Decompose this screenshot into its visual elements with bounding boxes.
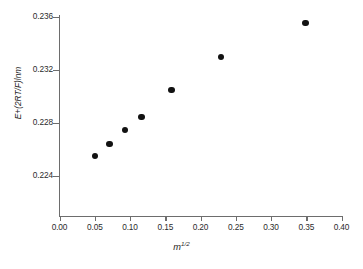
x-tick-label: 0.35 bbox=[286, 222, 326, 232]
x-tick-mark bbox=[60, 216, 61, 221]
x-tick-label: 0.40 bbox=[322, 222, 362, 232]
x-tick-mark bbox=[95, 216, 96, 221]
y-tick-label-text: 0.228 bbox=[19, 118, 53, 127]
data-point bbox=[218, 54, 224, 60]
data-point bbox=[92, 153, 98, 159]
x-tick-mark bbox=[165, 216, 166, 221]
x-tick-label: 0.15 bbox=[145, 222, 185, 232]
y-tick-mark bbox=[53, 17, 59, 18]
x-tick-label: 0.25 bbox=[216, 222, 256, 232]
x-axis-title-exponent: 1/2 bbox=[181, 240, 190, 247]
y-tick-label-text: 0.232 bbox=[19, 65, 53, 74]
data-point bbox=[168, 87, 174, 93]
data-point bbox=[122, 127, 128, 133]
x-tick-mark bbox=[201, 216, 202, 221]
x-tick-mark bbox=[236, 216, 237, 221]
x-tick-label: 0.30 bbox=[251, 222, 291, 232]
scatter-plot: 0.2360.2320.2280.224 0.000.050.100.150.2… bbox=[0, 0, 363, 269]
x-tick-label: 0.20 bbox=[181, 222, 221, 232]
y-tick-mark bbox=[53, 176, 59, 177]
y-tick-mark bbox=[53, 70, 59, 71]
y-tick-label-text: 0.236 bbox=[19, 12, 53, 21]
data-point bbox=[138, 114, 144, 120]
x-tick-mark bbox=[271, 216, 272, 221]
data-point bbox=[302, 20, 308, 26]
x-tick-label: 0.05 bbox=[75, 222, 115, 232]
y-tick-mark bbox=[53, 123, 59, 124]
x-axis-title-base: m bbox=[173, 242, 181, 252]
y-axis-title: E+(2RT/F)lnm bbox=[13, 23, 23, 163]
x-axis-title: m1/2 bbox=[0, 240, 363, 252]
y-tick-label-text: 0.224 bbox=[19, 171, 53, 180]
x-tick-label: 0.10 bbox=[110, 222, 150, 232]
x-tick-mark bbox=[130, 216, 131, 221]
y-axis-line bbox=[59, 15, 60, 217]
x-tick-mark bbox=[342, 216, 343, 221]
data-point bbox=[106, 141, 112, 147]
x-tick-mark bbox=[306, 216, 307, 221]
x-tick-label: 0.00 bbox=[40, 222, 80, 232]
